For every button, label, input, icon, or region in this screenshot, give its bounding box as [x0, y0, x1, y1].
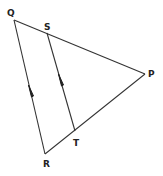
triangle-figure: Q S P R T	[0, 0, 163, 176]
parallel-arrow-icon-qr	[29, 85, 34, 97]
label-p: P	[148, 69, 155, 79]
label-s: S	[44, 22, 50, 32]
geometry-diagram: Q S P R T	[0, 0, 163, 176]
label-q: Q	[7, 8, 15, 18]
segment-pr	[45, 74, 145, 154]
segment-qp	[14, 20, 145, 74]
label-t: T	[73, 138, 80, 148]
parallel-arrow-icon-st	[59, 74, 64, 86]
label-r: R	[43, 159, 50, 169]
